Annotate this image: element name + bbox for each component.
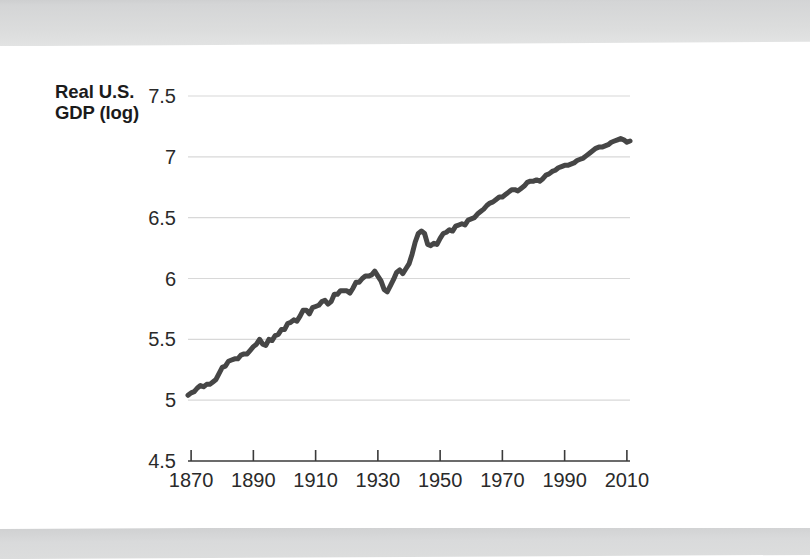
scan-band-bottom (0, 525, 810, 559)
x-tick-label: 1970 (480, 469, 525, 491)
x-tick-label: 1990 (542, 469, 587, 491)
y-tick-label: 6 (165, 268, 176, 290)
x-axis-tick-labels: 18701890191019301950197019902010 (169, 469, 649, 491)
series-line (188, 139, 630, 396)
gdp-line-chart: 7.576.565.554.5 187018901910193019501970… (0, 46, 810, 528)
scan-band-top (0, 0, 810, 46)
x-axis-line-and-ticks (188, 450, 630, 461)
chart-figure: Real U.S. GDP (log) 7.576.565.554.5 1870… (0, 46, 810, 528)
x-tick-label: 1870 (169, 469, 214, 491)
y-tick-label: 6.5 (148, 207, 176, 229)
gridlines (188, 96, 630, 400)
y-tick-label: 5.5 (148, 328, 176, 350)
x-tick-label: 2010 (605, 469, 650, 491)
y-axis-tick-labels: 7.576.565.554.5 (148, 85, 176, 472)
gdp-series-line (188, 139, 630, 396)
x-tick-label: 1930 (356, 469, 401, 491)
y-tick-label: 5 (165, 389, 176, 411)
x-tick-label: 1910 (293, 469, 338, 491)
y-tick-label: 7 (165, 146, 176, 168)
x-tick-label: 1950 (418, 469, 463, 491)
y-tick-label: 7.5 (148, 85, 176, 107)
x-tick-label: 1890 (231, 469, 276, 491)
